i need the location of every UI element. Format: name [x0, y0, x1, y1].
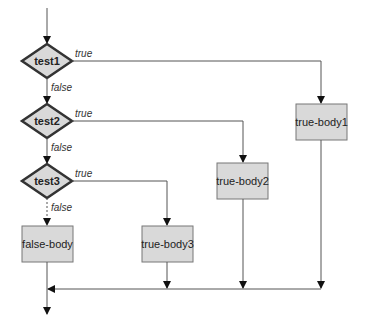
- decision-test3: test3: [22, 164, 72, 198]
- decision-test1: test1: [22, 44, 72, 78]
- process-true-body2-label: true-body2: [216, 175, 269, 187]
- process-false-body: false-body: [22, 226, 73, 262]
- edge-label-test3-false: false: [51, 202, 73, 213]
- process-true-body3-label: true-body3: [141, 238, 194, 250]
- decision-test2-label: test2: [34, 115, 60, 127]
- edge-test1-true: [72, 61, 321, 103]
- flowchart-canvas: test1 true false test2 true false test3 …: [0, 0, 369, 329]
- edge-test2-true: [72, 121, 243, 162]
- decision-test3-label: test3: [34, 175, 60, 187]
- process-true-body2: true-body2: [216, 163, 269, 199]
- decision-test2: test2: [22, 104, 72, 138]
- process-true-body1: true-body1: [295, 104, 348, 140]
- edge-label-test2-true: true: [75, 108, 93, 119]
- edge-label-test2-false: false: [51, 142, 73, 153]
- process-true-body3: true-body3: [141, 226, 194, 262]
- edge-label-test1-true: true: [75, 48, 93, 59]
- process-true-body1-label: true-body1: [295, 116, 348, 128]
- process-false-body-label: false-body: [22, 238, 73, 250]
- edge-label-test1-false: false: [51, 82, 73, 93]
- edge-test3-true: [72, 181, 167, 225]
- edge-label-test3-true: true: [75, 168, 93, 179]
- decision-test1-label: test1: [34, 55, 60, 67]
